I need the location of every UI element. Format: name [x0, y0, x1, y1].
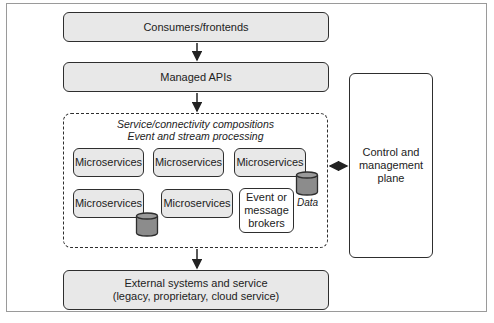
connector-arrows	[0, 0, 494, 323]
